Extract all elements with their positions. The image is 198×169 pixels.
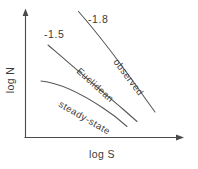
log-n-log-s-chart: -1.8 -1.5 observed Euclidean steady-stat… — [0, 0, 198, 169]
curve-label-observed: observed — [111, 57, 146, 98]
slope-annotation-euclidean: -1.5 — [44, 28, 65, 40]
y-axis-label: log N — [4, 67, 16, 94]
curve-label-euclidean: Euclidean — [75, 65, 117, 104]
x-axis — [25, 135, 184, 141]
slope-annotation-observed: -1.8 — [88, 13, 109, 25]
x-axis-arrowhead — [176, 135, 184, 141]
x-axis-label: log S — [89, 148, 115, 160]
curve-label-steady-state: steady-state — [57, 98, 113, 136]
y-axis-arrowhead — [23, 9, 29, 17]
y-axis — [23, 9, 29, 138]
figure-container: -1.8 -1.5 observed Euclidean steady-stat… — [0, 0, 198, 169]
